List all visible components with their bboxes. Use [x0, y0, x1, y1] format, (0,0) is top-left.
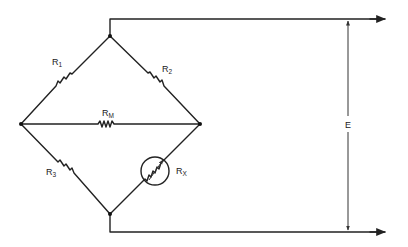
resistor-rm: RM: [21, 108, 200, 127]
resistor-r1: R1: [21, 36, 110, 124]
right-node: [198, 122, 202, 126]
output-voltage-e: E: [345, 21, 351, 230]
bottom-node: [108, 212, 112, 216]
r3-label: R3: [46, 167, 57, 178]
bottom-output-lead: [110, 214, 385, 232]
rm-label: RM: [102, 108, 114, 119]
resistor-rx: RX: [110, 124, 200, 214]
variable-arrow-icon: [149, 160, 163, 180]
left-node: [19, 122, 23, 126]
r2-label: R2: [162, 64, 173, 75]
r1-label: R1: [52, 57, 63, 68]
rx-label: RX: [176, 166, 188, 177]
resistor-r3: R3: [21, 124, 110, 214]
e-label: E: [345, 120, 351, 130]
top-node: [108, 34, 112, 38]
wheatstone-bridge-diagram: R1 R2 RM R3 RX E: [0, 0, 408, 247]
resistor-r2: R2: [110, 36, 200, 124]
top-output-lead: [110, 19, 385, 36]
